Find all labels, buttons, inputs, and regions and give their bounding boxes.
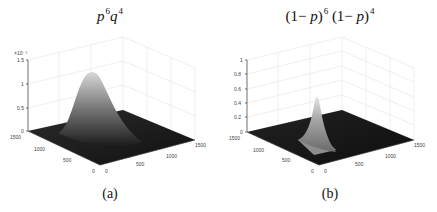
panel-a: p6q4 ×10⁻³ 1.5 1 0.5 0 1500 1000 500 0 0…: [0, 0, 218, 212]
x-tick: 0: [105, 168, 108, 174]
z-multiplier-a: ×10⁻³: [14, 50, 27, 56]
y-tick: 1000: [253, 147, 264, 153]
x-tick: 1000: [385, 153, 396, 159]
caption-a: (a): [102, 186, 118, 202]
x-tick: 1500: [414, 142, 425, 148]
z-tick: 1.5: [17, 57, 24, 63]
z-tick: 0.8: [234, 71, 241, 77]
z-tick: 1: [21, 81, 24, 87]
z-tick: 0: [21, 128, 24, 134]
x-tick: 500: [355, 161, 363, 167]
title-b: (1− p)6 (1− p)4: [285, 6, 374, 25]
x-tick: 1500: [195, 142, 206, 148]
z-tick: 0.4: [234, 100, 241, 106]
y-tick: 1500: [10, 134, 21, 140]
x-tick: 1000: [166, 153, 177, 159]
caption-b: (b): [322, 186, 338, 202]
panel-b: (1− p)6 (1− p)4 1 0.8 0.6 0.4 0.2 0 1500…: [218, 0, 437, 212]
y-tick: 500: [282, 157, 290, 163]
title-a: p6q4: [97, 6, 123, 25]
y-tick: 1000: [34, 146, 45, 152]
surface-plot-b: [218, 0, 437, 212]
y-tick: 500: [63, 157, 71, 163]
z-tick: 0.2: [234, 114, 241, 120]
bump-surface-a: [58, 72, 142, 147]
surface-plot-a: [0, 0, 218, 212]
y-tick: 0: [92, 168, 95, 174]
z-tick: 0.6: [234, 86, 241, 92]
y-tick: 0: [311, 168, 314, 174]
z-tick: 0.5: [17, 105, 24, 111]
x-tick: 0: [324, 168, 327, 174]
x-tick: 500: [136, 161, 144, 167]
z-tick: 0: [240, 129, 243, 135]
y-tick: 1500: [229, 135, 240, 141]
z-tick: 1: [240, 57, 243, 63]
